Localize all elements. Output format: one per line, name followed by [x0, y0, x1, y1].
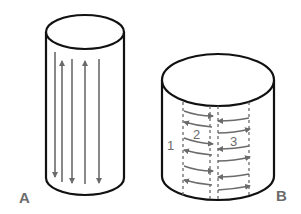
zone-label-2: 2	[193, 127, 200, 142]
panel-label-a: A	[19, 189, 30, 206]
circumferential-arrows	[184, 111, 250, 190]
zone-label-3: 3	[230, 134, 237, 149]
panel-label-b: B	[276, 187, 287, 204]
cylinder-a	[46, 15, 124, 195]
zone-label-1: 1	[167, 138, 174, 153]
cylinder-b: 1 2 3	[162, 54, 274, 200]
diagram-canvas: 1 2 3 A B	[0, 0, 301, 214]
longitudinal-arrows	[55, 52, 99, 184]
zone-dividers	[183, 102, 249, 200]
